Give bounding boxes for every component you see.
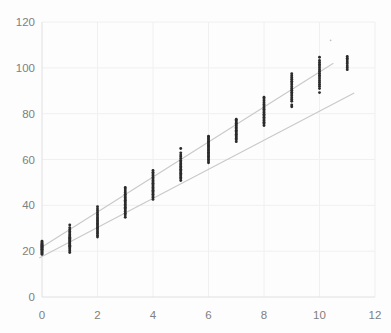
data-point xyxy=(41,240,44,243)
y-tick-label: 60 xyxy=(22,154,35,166)
x-tick-label: 8 xyxy=(261,309,267,321)
data-point xyxy=(263,96,266,99)
data-point xyxy=(235,118,238,121)
data-point xyxy=(290,104,293,107)
data-point xyxy=(68,224,71,227)
y-tick-label: 100 xyxy=(16,62,35,74)
y-tick-label: 0 xyxy=(29,291,35,303)
x-tick-label: 12 xyxy=(369,309,382,321)
trend-lines xyxy=(39,63,354,258)
chart-canvas: 020406080100120 024681012 xyxy=(0,0,391,333)
x-tick-label: 0 xyxy=(39,309,45,321)
data-points xyxy=(41,39,349,255)
data-point xyxy=(207,135,210,138)
data-point xyxy=(346,55,349,58)
data-point xyxy=(290,72,293,75)
y-tick-label: 80 xyxy=(22,108,35,120)
x-tick-label: 2 xyxy=(94,309,100,321)
data-point xyxy=(96,205,99,208)
x-tick-label: 4 xyxy=(150,309,157,321)
data-point xyxy=(318,56,321,59)
x-axis-tick-labels: 024681012 xyxy=(39,309,382,321)
data-point xyxy=(179,147,182,150)
x-tick-label: 10 xyxy=(313,309,326,321)
data-point xyxy=(330,39,332,41)
y-tick-label: 40 xyxy=(22,199,35,211)
y-axis-tick-labels: 020406080100120 xyxy=(16,16,35,303)
data-point xyxy=(318,59,321,62)
x-tick-label: 6 xyxy=(205,309,211,321)
data-point xyxy=(179,151,182,154)
data-point xyxy=(318,91,321,94)
trend-line xyxy=(39,93,354,258)
scatter-chart: 020406080100120 024681012 xyxy=(0,0,391,333)
y-tick-label: 120 xyxy=(16,16,35,28)
data-point xyxy=(152,169,155,172)
data-point xyxy=(68,226,71,229)
data-point xyxy=(124,186,127,189)
y-tick-label: 20 xyxy=(22,245,35,257)
trend-line xyxy=(42,63,333,247)
